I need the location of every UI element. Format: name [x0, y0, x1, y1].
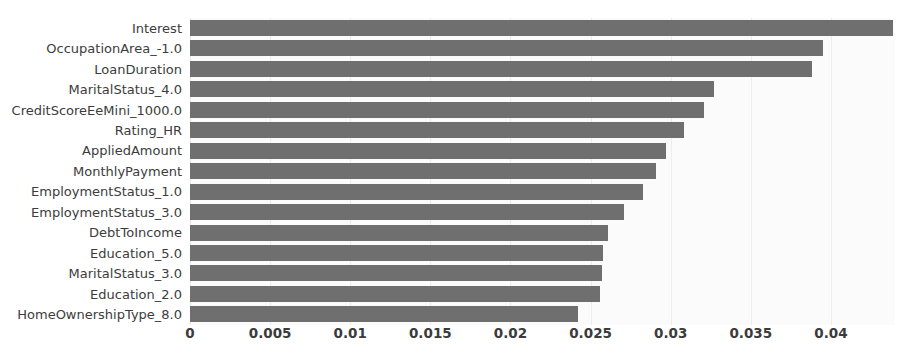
y-axis-label: EmploymentStatus_1.0: [31, 185, 182, 198]
bar-row: [190, 141, 895, 161]
y-axis-label: CreditScoreEeMini_1000.0: [12, 104, 182, 117]
x-tick-label: 0.015: [409, 327, 452, 341]
bar-row: [190, 161, 895, 181]
y-axis-label-row: MonthlyPayment: [0, 161, 186, 181]
x-tick-label: 0.02: [494, 327, 527, 341]
bar-row: [190, 59, 895, 79]
bar-row: [190, 223, 895, 243]
bar-row: [190, 284, 895, 304]
y-axis-label-row: MaritalStatus_4.0: [0, 79, 186, 99]
y-axis-label: Education_5.0: [90, 247, 182, 260]
bar: [190, 245, 603, 261]
y-axis-label-row: EmploymentStatus_1.0: [0, 182, 186, 202]
bar-row: [190, 100, 895, 120]
y-axis-label-row: DebtToIncome: [0, 223, 186, 243]
bar: [190, 122, 684, 138]
bar: [190, 143, 666, 159]
y-axis-category-labels: InterestOccupationArea_-1.0LoanDurationM…: [0, 18, 186, 325]
x-tick-label: 0.04: [814, 327, 847, 341]
bar: [190, 265, 602, 281]
y-axis-label-row: EmploymentStatus_3.0: [0, 202, 186, 222]
y-axis-label: Education_2.0: [90, 288, 182, 301]
y-axis-label-row: LoanDuration: [0, 59, 186, 79]
bar-row: [190, 79, 895, 99]
plot-area: [190, 18, 895, 325]
x-tick-label: 0.025: [569, 327, 612, 341]
y-axis-label-row: HomeOwnershipType_8.0: [0, 304, 186, 324]
bar-row: [190, 120, 895, 140]
y-axis-label-row: Education_5.0: [0, 243, 186, 263]
y-axis-label: HomeOwnershipType_8.0: [17, 308, 182, 321]
bar: [190, 61, 812, 77]
bar-row: [190, 18, 895, 38]
y-axis-label: MonthlyPayment: [73, 165, 182, 178]
bar: [190, 102, 704, 118]
y-axis-label: MaritalStatus_4.0: [69, 83, 182, 96]
y-axis-label: AppliedAmount: [82, 144, 182, 157]
bar: [190, 20, 893, 36]
bar-series: [190, 18, 895, 325]
bar: [190, 204, 624, 220]
bar: [190, 163, 656, 179]
x-tick-label: 0.035: [729, 327, 772, 341]
y-axis-label: LoanDuration: [94, 63, 182, 76]
y-axis-label-row: AppliedAmount: [0, 141, 186, 161]
bar-row: [190, 38, 895, 58]
y-axis-label-row: Interest: [0, 18, 186, 38]
y-axis-label: EmploymentStatus_3.0: [31, 206, 182, 219]
bar-row: [190, 304, 895, 324]
y-axis-label: OccupationArea_-1.0: [46, 42, 182, 55]
x-tick-label: 0.01: [334, 327, 367, 341]
y-axis-label-row: Education_2.0: [0, 284, 186, 304]
bar: [190, 184, 643, 200]
feature-importance-bar-chart: InterestOccupationArea_-1.0LoanDurationM…: [0, 0, 907, 359]
bar-row: [190, 202, 895, 222]
y-axis-label: Rating_HR: [115, 124, 182, 137]
x-tick-label: 0.03: [654, 327, 687, 341]
bar-row: [190, 263, 895, 283]
y-axis-label: MaritalStatus_3.0: [69, 267, 182, 280]
x-tick-label: 0: [185, 327, 194, 341]
y-axis-label-row: Rating_HR: [0, 120, 186, 140]
y-axis-label-row: OccupationArea_-1.0: [0, 38, 186, 58]
y-axis-label: DebtToIncome: [89, 226, 182, 239]
y-axis-label-row: CreditScoreEeMini_1000.0: [0, 100, 186, 120]
bar-row: [190, 182, 895, 202]
bar: [190, 225, 608, 241]
bar: [190, 40, 823, 56]
x-tick-label: 0.005: [249, 327, 292, 341]
bar: [190, 286, 600, 302]
y-axis-label-row: MaritalStatus_3.0: [0, 263, 186, 283]
bar-row: [190, 243, 895, 263]
bar: [190, 81, 714, 97]
x-axis-tick-labels: 00.0050.010.0150.020.0250.030.0350.04: [190, 327, 895, 351]
bar: [190, 306, 578, 322]
y-axis-label: Interest: [132, 22, 182, 35]
